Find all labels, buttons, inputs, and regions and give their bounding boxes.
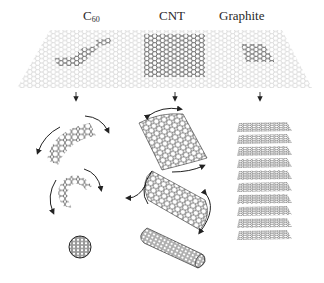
down-arrows (76, 92, 260, 99)
label-c60: C60 (83, 8, 100, 24)
graphite-layer (237, 146, 292, 156)
label-c60-subscript: 60 (92, 15, 100, 24)
cnt-closed-tube (141, 228, 207, 269)
cnt-half-rolled (144, 171, 208, 230)
curl-arrow-left-icon (128, 184, 146, 198)
cnt-column (128, 108, 210, 269)
carbon-allotropes-diagram (0, 0, 324, 283)
label-cnt: CNT (159, 8, 185, 24)
graphite-stack (237, 122, 292, 240)
cnt-curved-sheet (139, 114, 207, 170)
c60-buckyball (69, 236, 91, 258)
graphite-layer (237, 230, 292, 240)
graphite-layer (237, 134, 292, 144)
curl-arrow-bottom-icon (172, 166, 203, 172)
curl-arrow-left-icon (50, 180, 56, 212)
c60-partial-cage (58, 175, 92, 208)
label-c60-main: C (83, 8, 92, 23)
label-graphite: Graphite (219, 8, 264, 24)
graphite-layer (237, 182, 292, 192)
graphite-layer (237, 194, 292, 204)
graphite-layer (237, 218, 292, 228)
cnt-highlight-region (144, 34, 205, 77)
c60-column (38, 116, 108, 258)
graphite-layer (237, 206, 292, 216)
graphene-sheet (17, 30, 312, 88)
graphite-layer (237, 158, 292, 168)
graphite-layer (237, 170, 292, 180)
c60-curved-fragment (47, 121, 97, 165)
graphite-layer (237, 122, 292, 132)
